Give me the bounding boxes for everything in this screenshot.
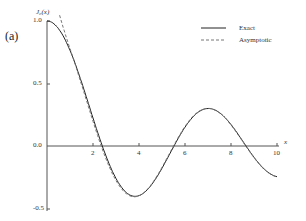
ytick-2: 0.5 (33, 79, 42, 87)
chart: (a) J₀(x) x 1.0 0.5 0.0 -0.5 2 4 6 8 10 … (0, 0, 306, 221)
panel-label: (a) (5, 29, 18, 44)
ytick-3: 0.0 (33, 141, 42, 149)
y-axis-label: J₀(x) (36, 8, 49, 16)
plot-area (0, 0, 306, 221)
ytick-4: -0.5 (33, 204, 44, 212)
exact-series-line (47, 21, 277, 196)
xtick-4: 8 (229, 149, 233, 157)
x-axis-label: x (284, 138, 287, 146)
xtick-2: 4 (137, 149, 141, 157)
ytick-1: 1.0 (33, 16, 42, 24)
xtick-5: 10 (273, 149, 280, 157)
legend-asymptotic-label: Asymptotic (239, 36, 272, 44)
legend-exact-label: Exact (239, 24, 255, 32)
xtick-1: 2 (91, 149, 95, 157)
xtick-3: 6 (183, 149, 187, 157)
